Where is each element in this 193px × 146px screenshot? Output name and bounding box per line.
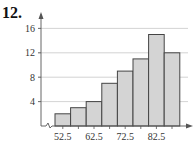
histogram-bar xyxy=(117,71,133,126)
x-tick-label: 52.5 xyxy=(54,131,72,142)
y-tick-label: 8 xyxy=(30,72,35,83)
y-tick-label: 4 xyxy=(30,96,35,107)
histogram-chart: 48121652.562.572.582.5 xyxy=(0,0,193,146)
histogram-bar xyxy=(164,53,180,126)
x-axis-arrow-icon xyxy=(186,124,193,129)
x-tick-label: 72.5 xyxy=(116,131,134,142)
histogram-bar xyxy=(102,83,118,126)
histogram-bar xyxy=(86,102,102,126)
histogram-bar xyxy=(71,108,87,126)
x-tick-label: 62.5 xyxy=(85,131,103,142)
y-tick-label: 16 xyxy=(25,23,35,34)
x-tick-label: 82.5 xyxy=(148,131,166,142)
histogram-bar xyxy=(133,59,149,126)
histogram-bar xyxy=(55,114,71,126)
y-tick-label: 12 xyxy=(25,47,35,58)
y-axis-arrow-icon xyxy=(39,12,44,19)
histogram-bar xyxy=(149,35,165,127)
